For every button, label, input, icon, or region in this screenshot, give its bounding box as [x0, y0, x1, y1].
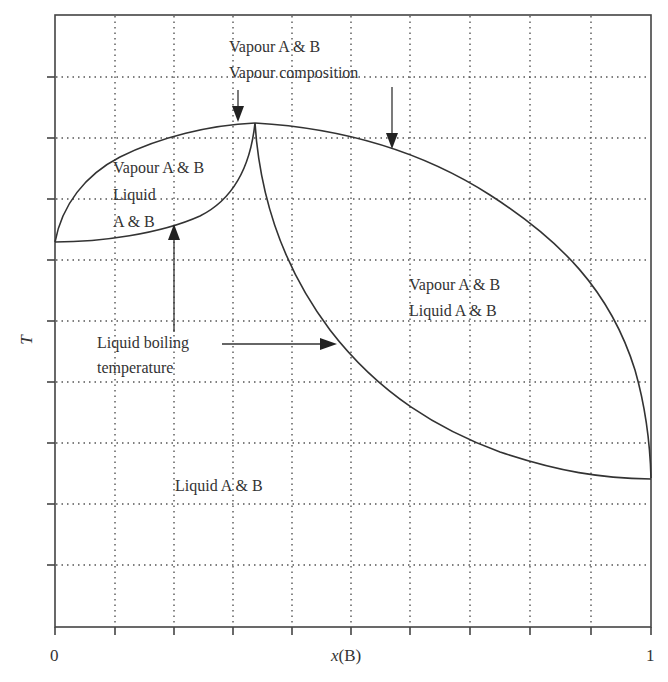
vapour-curve-left [55, 123, 255, 242]
arrow-head-icon [320, 338, 337, 350]
grid-lines [56, 16, 650, 626]
annotation-arrows [168, 87, 398, 350]
label-top-line2: Vapour composition [229, 64, 358, 82]
x-axis-label: x(B) [330, 646, 361, 665]
y-axis-label: T [17, 334, 36, 345]
label-boiling-line2: temperature [97, 359, 173, 377]
label-left-region-line2: Liquid [113, 186, 156, 204]
label-left-region-line3: A & B [113, 213, 155, 230]
label-bottom-region: Liquid A & B [175, 477, 263, 495]
label-right-region-line1: Vapour A & B [409, 276, 500, 294]
x-tick-min: 0 [50, 646, 59, 665]
phase-diagram-svg: Vapour A & B Vapour composition Vapour A… [0, 0, 668, 682]
label-right-region-line2: Liquid A & B [409, 302, 497, 320]
phase-diagram-figure: Vapour A & B Vapour composition Vapour A… [0, 0, 668, 682]
label-top-line1: Vapour A & B [229, 38, 320, 56]
label-boiling-line1: Liquid boiling [97, 334, 189, 352]
annotation-labels: Vapour A & B Vapour composition Vapour A… [97, 38, 500, 495]
x-axis-label-arg: (B) [339, 646, 362, 665]
phase-curves [55, 123, 651, 479]
arrow-head-icon [232, 106, 244, 122]
x-tick-max: 1 [646, 646, 655, 665]
label-left-region-line1: Vapour A & B [113, 159, 204, 177]
